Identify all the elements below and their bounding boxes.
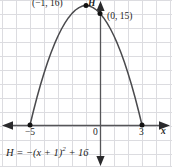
h-axis (96, 1, 104, 166)
y-intercept-label: (0, 15) (107, 12, 132, 22)
parabola-curve (30, 5, 142, 125)
x-axis-label: x (161, 127, 166, 137)
equation-equals: = (16, 147, 23, 158)
vertex-label: (−1, 16) (32, 0, 63, 9)
x-tick-label-minus5: −5 (25, 128, 35, 138)
x-tick-label-zero: 0 (93, 128, 98, 138)
point-y-intercept (98, 11, 103, 16)
equation-lhs: H (6, 147, 14, 158)
h-axis-bottom-arrowhead (96, 156, 104, 166)
equation-rhs-constant: + 16 (68, 147, 88, 158)
quadratic-graph-figure: (−1, 16) (0, 15) H x −5 0 3 H = −(x + 1)… (0, 0, 172, 167)
equation-exponent: 2 (62, 145, 66, 153)
x-tick-label-three: 3 (139, 128, 144, 138)
h-axis-label: H (88, 0, 95, 9)
x-axis-left-arrowhead (2, 121, 13, 130)
h-axis-top-arrowhead (96, 1, 104, 11)
equation-rhs-base: −(x + 1) (26, 147, 62, 158)
equation-label: H = −(x + 1)2 + 16 (6, 146, 89, 158)
marked-points (28, 3, 145, 128)
plot-layer (0, 0, 172, 167)
